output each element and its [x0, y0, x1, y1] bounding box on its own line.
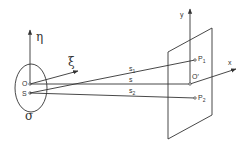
point-p2-label: P2	[198, 94, 206, 103]
ray-s1	[30, 60, 195, 93]
y-label: y	[180, 11, 184, 19]
origin-label-o-prime: O′	[192, 73, 199, 80]
sigma-label: σ	[25, 109, 33, 123]
point-p1	[194, 59, 196, 61]
point-p1-label: P1	[198, 55, 206, 64]
ray-s2-label: s2	[129, 87, 136, 96]
xi-axis	[30, 71, 78, 84]
origin-label-o: O	[22, 80, 28, 87]
source-aperture-ellipse	[15, 64, 47, 112]
xi-label: ξ	[68, 55, 75, 69]
eta-label: η	[36, 30, 43, 44]
point-p2	[194, 97, 196, 99]
origin-point-o-prime	[189, 83, 191, 85]
ray-s1-label: s1	[129, 65, 136, 74]
source-label-s: S	[22, 90, 27, 97]
optics-diagram: η ξ O S σ s1 s s2 y x O′ P1 P2	[0, 0, 249, 145]
ray-s2	[30, 93, 195, 98]
x-label: x	[228, 59, 232, 66]
ray-s-label: s	[129, 76, 133, 83]
